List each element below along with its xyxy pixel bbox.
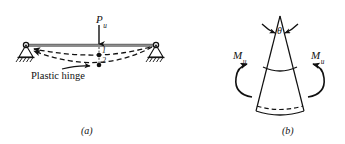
- rotation-angle-label: θ: [277, 26, 282, 36]
- theta-arrow-left: [262, 24, 275, 33]
- wedge-side-right: [280, 16, 304, 111]
- hinge-point-2-label: 2: [102, 57, 106, 65]
- load-subscript: u: [103, 22, 107, 30]
- caption-panel-a: (a): [81, 126, 93, 136]
- moment-arrow-left: [236, 64, 252, 97]
- hinge-node-2: [97, 63, 102, 68]
- moment-right-subscript: u: [321, 58, 325, 66]
- plastic-hinge-label: Plastic hinge: [31, 71, 85, 82]
- caption-panel-b: (b): [282, 126, 294, 136]
- structural-figure: Pu Plastic hinge 1 2 (a) θ Mu Mu (b): [0, 0, 345, 144]
- moment-arrow-right: [308, 64, 324, 97]
- panel-a-group: [16, 25, 165, 69]
- wedge-top-curve: [263, 67, 297, 71]
- moment-label-right: Mu: [311, 50, 324, 64]
- hinge-point-1-label: 1: [102, 47, 106, 55]
- moment-right-symbol: M: [311, 49, 320, 61]
- load-symbol: P: [96, 13, 103, 25]
- wedge-bottom-curve: [256, 111, 304, 115]
- theta-arrow-right: [285, 24, 298, 33]
- moment-label-left: Mu: [233, 50, 246, 64]
- moment-left-subscript: u: [243, 58, 247, 66]
- moment-left-symbol: M: [233, 49, 242, 61]
- hinge-node-1: [97, 53, 102, 58]
- load-label: Pu: [96, 14, 106, 28]
- wedge-dashed-curve: [257, 106, 303, 110]
- hinge-leader-line: [62, 66, 90, 69]
- deflection-curve-1: [34, 47, 150, 55]
